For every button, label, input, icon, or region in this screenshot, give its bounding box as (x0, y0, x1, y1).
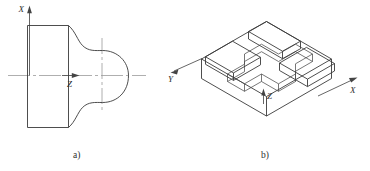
panel-b-slab-top-face (202, 22, 332, 97)
panel-a-bulb-lower-profile (69, 76, 129, 128)
panel-b-x-axis-line (318, 80, 352, 96)
panel-b-y-axis-line (174, 59, 202, 72)
panel-b-pad-right-top (280, 47, 335, 79)
panel-a-x-axis-arrowhead (27, 6, 32, 14)
panel-a-z-axis-label: Z (67, 79, 73, 89)
panel-b-y-axis-label: Y (168, 74, 174, 84)
panel-a-group: X Z a) (8, 4, 146, 162)
panel-b-group: Y X Z (168, 22, 358, 162)
panel-b-slot-floor-outline (228, 52, 313, 92)
panel-b-x-axis-label: X (349, 85, 356, 95)
panel-a-bulb-upper-profile (69, 26, 129, 76)
panel-a-shank-rectangle (28, 26, 69, 128)
panel-a-z-axis-arrowhead (72, 73, 80, 78)
technical-drawing-figure: X Z a) Y X Z (0, 0, 370, 171)
panel-a-x-axis-label: X (18, 4, 25, 14)
panel-b-pad-left-front-left (206, 57, 234, 81)
panel-b-slab-front-right-face (267, 59, 332, 116)
panel-b-slot-mouth-outline (228, 44, 313, 84)
panel-a-caption: a) (73, 150, 80, 161)
panel-b-x-axis-arrowhead (349, 77, 358, 82)
figure-canvas: X Z a) Y X Z (0, 0, 370, 171)
panel-b-pad-rear-front-left (249, 32, 283, 59)
panel-b-caption: b) (261, 150, 269, 161)
panel-b-pad-right-front-right (308, 64, 335, 87)
panel-b-pad-rear-top (249, 22, 301, 52)
